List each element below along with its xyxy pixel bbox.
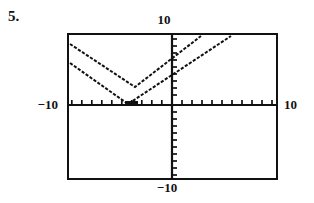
problem-number: 5. — [8, 8, 19, 25]
vertex-marker — [125, 101, 138, 106]
axis-label-left: −10 — [38, 97, 58, 113]
calculator-screen — [67, 33, 278, 180]
axis-label-right: 10 — [284, 97, 297, 113]
curve-upper-v — [70, 36, 201, 87]
screenshot-root: 5. 10 −10 −10 10 — [0, 0, 314, 203]
graph-canvas — [69, 35, 276, 178]
axis-label-bottom: −10 — [157, 180, 177, 196]
curve-lower-v — [70, 36, 231, 104]
axis-label-top: 10 — [158, 12, 171, 28]
